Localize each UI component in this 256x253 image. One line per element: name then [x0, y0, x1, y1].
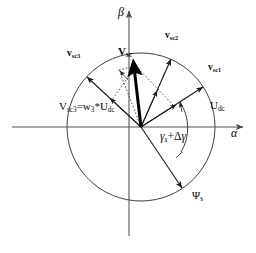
beta-axis-label: β — [118, 6, 124, 18]
alpha-axis-label: α — [231, 127, 237, 139]
v-sc3-label-sub: sc3 — [72, 52, 80, 59]
angle-arc-tail-tick — [176, 152, 182, 158]
diagram-canvas — [0, 0, 256, 253]
v-sc-label-sub: sc — [126, 51, 132, 59]
dotted-construction-line-4 — [136, 66, 174, 106]
u-dc-label-head: U — [210, 99, 218, 111]
equation-v: V — [59, 100, 67, 112]
angle-gamma2: γ — [181, 130, 186, 142]
equation-w-sub: 3 — [91, 106, 95, 114]
u-dc-label: Udc — [210, 100, 225, 111]
v-sc1-label-sub: sc1 — [213, 66, 221, 73]
equation-v-sub: sc3 — [67, 106, 77, 114]
psi-s-label: Ψs — [192, 190, 203, 201]
equation-star: *U — [94, 100, 107, 112]
vector-v-sc-resultant — [134, 67, 141, 127]
dotted-construction-arrow — [120, 71, 128, 80]
inner-vector-3 — [112, 100, 141, 127]
equation-label: Vsc3=w3*Udc — [59, 101, 115, 112]
equation-u-sub: dc — [108, 106, 115, 114]
u-dc-label-sub: dc — [218, 105, 225, 113]
psi-s-label-head: Ψ — [192, 189, 200, 201]
v-sc-label-head: V — [118, 45, 126, 57]
angle-label: γs+Δγ — [160, 131, 186, 143]
vector-diagram-figure: β α Vsc vsc1 vsc2 vsc3 Vsc3=w3*Udc Udc γ… — [0, 0, 256, 253]
angle-gamma-sub: s — [165, 135, 168, 144]
equation-eq: =w — [77, 100, 91, 112]
angle-gamma: γ — [160, 130, 165, 142]
v-sc-label: Vsc — [118, 46, 132, 57]
v-sc2-label-sub: sc2 — [170, 34, 178, 41]
v-sc3-label: vsc3 — [67, 49, 80, 59]
dotted-construction-line-5 — [112, 66, 136, 100]
v-sc2-label: vsc2 — [165, 31, 178, 41]
v-sc1-label: vsc1 — [208, 63, 221, 73]
psi-s-label-sub: s — [200, 195, 203, 203]
